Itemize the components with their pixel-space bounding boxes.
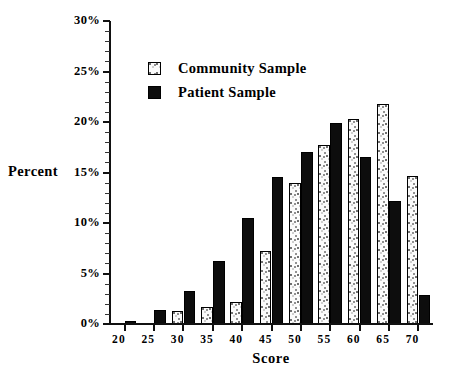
bar-patient-30 (184, 291, 196, 324)
x-tick-mark (241, 325, 243, 331)
bar-chart: Percent 0%5%10%15%20%25%30% 202530354045… (0, 0, 450, 373)
y-tick-label: 0% (58, 317, 100, 329)
y-tick-label: 30% (58, 14, 100, 26)
bar-patient-35 (213, 261, 225, 324)
chart-legend: Community Sample Patient Sample (148, 58, 348, 106)
bar-patient-55 (330, 123, 342, 324)
bar-community-60 (348, 119, 360, 324)
y-tick-label: 20% (58, 115, 100, 127)
bar-community-65 (377, 104, 389, 324)
y-tick-mark (103, 222, 110, 224)
x-tick-mark (271, 325, 273, 331)
y-tick-mark (103, 273, 110, 275)
x-tick-mark (124, 325, 126, 331)
x-tick-mark (388, 325, 390, 331)
x-tick-mark (417, 325, 419, 331)
bar-patient-50 (301, 152, 313, 324)
y-tick-label: 25% (58, 65, 100, 77)
bar-community-35 (201, 307, 213, 324)
x-tick-mark (212, 325, 214, 331)
legend-item-community[interactable]: Community Sample (148, 58, 348, 79)
bar-patient-60 (360, 157, 372, 324)
bar-patient-70 (419, 295, 431, 324)
x-tick-mark (300, 325, 302, 331)
y-tick-mark (103, 172, 110, 174)
bar-community-50 (289, 183, 301, 324)
y-tick-mark (103, 121, 110, 123)
legend-label-patient: Patient Sample (178, 84, 276, 101)
legend-label-community: Community Sample (178, 60, 306, 77)
x-tick-mark (153, 325, 155, 331)
bar-patient-40 (242, 218, 254, 324)
legend-item-patient[interactable]: Patient Sample (148, 82, 348, 103)
y-tick-mark (103, 71, 110, 73)
x-tick-mark (359, 325, 361, 331)
bar-community-55 (318, 145, 330, 324)
bar-patient-25 (154, 310, 166, 324)
bar-community-70 (407, 176, 419, 324)
y-tick-label: 10% (58, 216, 100, 228)
y-tick-label: 15% (58, 166, 100, 178)
y-tick-label: 5% (58, 267, 100, 279)
legend-swatch-community-icon (148, 62, 161, 75)
bar-community-40 (230, 302, 242, 324)
x-tick-label: 70 (393, 333, 433, 345)
bar-patient-65 (389, 201, 401, 324)
y-tick-mark (103, 20, 110, 22)
x-tick-mark (329, 325, 331, 331)
x-axis-title: Score (109, 350, 433, 367)
bar-community-45 (260, 251, 272, 324)
bar-patient-45 (272, 177, 284, 324)
legend-swatch-patient-icon (148, 86, 161, 99)
x-tick-mark (182, 325, 184, 331)
